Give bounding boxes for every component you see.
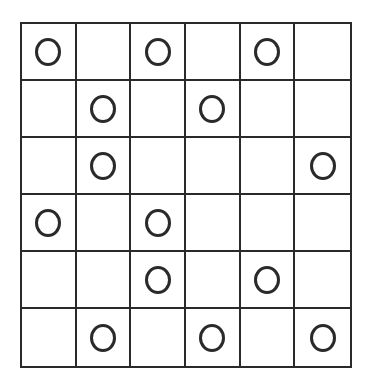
grid-cell-r5-c5 xyxy=(295,309,350,366)
circle-icon xyxy=(145,38,171,66)
circle-icon xyxy=(145,209,171,237)
grid-cell-r2-c1 xyxy=(77,138,132,195)
grid-cell-r5-c1 xyxy=(77,309,132,366)
circle-icon xyxy=(254,38,280,66)
circle-icon xyxy=(90,95,116,123)
circle-icon xyxy=(35,209,61,237)
grid-cell-r1-c4 xyxy=(241,81,296,138)
grid-cell-r2-c3 xyxy=(186,138,241,195)
circle-icon xyxy=(145,266,171,294)
grid-cell-r0-c1 xyxy=(77,24,132,81)
circle-icon xyxy=(254,266,280,294)
grid-cell-r5-c4 xyxy=(241,309,296,366)
grid-cell-r5-c3 xyxy=(186,309,241,366)
grid-cell-r4-c4 xyxy=(241,252,296,309)
grid-cell-r5-c0 xyxy=(22,309,77,366)
circle-icon xyxy=(310,324,336,352)
grid-cell-r0-c3 xyxy=(186,24,241,81)
grid-cell-r3-c2 xyxy=(131,195,186,252)
circle-icon xyxy=(35,38,61,66)
grid-cell-r3-c4 xyxy=(241,195,296,252)
grid-cell-r3-c1 xyxy=(77,195,132,252)
grid-cell-r4-c1 xyxy=(77,252,132,309)
grid-cell-r1-c3 xyxy=(186,81,241,138)
circle-icon xyxy=(90,324,116,352)
grid-cell-r4-c2 xyxy=(131,252,186,309)
grid-cell-r2-c0 xyxy=(22,138,77,195)
grid-cell-r1-c0 xyxy=(22,81,77,138)
grid-cell-r0-c4 xyxy=(241,24,296,81)
grid-cell-r1-c2 xyxy=(131,81,186,138)
circle-icon xyxy=(310,152,336,180)
circle-icon xyxy=(199,324,225,352)
grid-cell-r3-c5 xyxy=(295,195,350,252)
grid-cell-r0-c5 xyxy=(295,24,350,81)
grid-cell-r0-c0 xyxy=(22,24,77,81)
circle-icon xyxy=(199,95,225,123)
grid-cell-r3-c0 xyxy=(22,195,77,252)
grid-cell-r4-c5 xyxy=(295,252,350,309)
circle-grid xyxy=(20,22,352,368)
grid-cell-r4-c0 xyxy=(22,252,77,309)
grid-cell-r2-c2 xyxy=(131,138,186,195)
grid-cell-r1-c5 xyxy=(295,81,350,138)
grid-cell-r3-c3 xyxy=(186,195,241,252)
grid-cell-r1-c1 xyxy=(77,81,132,138)
grid-cell-r5-c2 xyxy=(131,309,186,366)
circle-icon xyxy=(90,152,116,180)
grid-cell-r2-c4 xyxy=(241,138,296,195)
grid-cell-r0-c2 xyxy=(131,24,186,81)
canvas xyxy=(0,0,366,378)
grid-cell-r4-c3 xyxy=(186,252,241,309)
grid-cell-r2-c5 xyxy=(295,138,350,195)
